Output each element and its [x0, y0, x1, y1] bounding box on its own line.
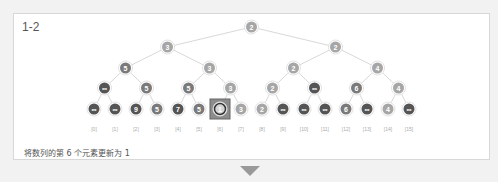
svg-text:2: 2	[292, 65, 296, 72]
leaf-index-label: [8]	[259, 126, 265, 132]
tree-node: ∞	[308, 81, 322, 95]
svg-text:∞: ∞	[113, 106, 118, 113]
svg-text:5: 5	[145, 85, 149, 92]
leaf-node: 5	[192, 102, 206, 116]
leaf-node: ∞	[108, 102, 122, 116]
svg-text:2: 2	[260, 106, 264, 113]
leaf-node: ∞	[276, 102, 290, 116]
svg-text:5: 5	[197, 106, 201, 113]
leaf-node: ∞	[297, 102, 311, 116]
svg-text:2: 2	[334, 44, 338, 51]
leaf-index-label: [13]	[363, 126, 372, 132]
svg-text:∞: ∞	[323, 106, 328, 113]
svg-text:∞: ∞	[102, 85, 107, 92]
leaf-index-label: [7]	[238, 126, 244, 132]
tree-node: 4	[371, 61, 385, 75]
tree-node: 5	[182, 81, 196, 95]
svg-text:3: 3	[229, 85, 233, 92]
leaf-node: 5	[150, 102, 164, 116]
segment-tree-diagram: 2325324∞5532∞64∞∞9575132∞∞∞6∞4∞[0][1][2]…	[14, 14, 491, 161]
leaf-index-label: [15]	[405, 126, 414, 132]
svg-text:4: 4	[386, 106, 390, 113]
leaf-index-label: [2]	[133, 126, 139, 132]
svg-text:∞: ∞	[92, 106, 97, 113]
leaf-index-label: [11]	[321, 126, 330, 132]
leaf-index-label: [6]	[217, 126, 223, 132]
leaf-index-label: [14]	[384, 126, 393, 132]
svg-text:∞: ∞	[281, 106, 286, 113]
svg-text:4: 4	[397, 85, 401, 92]
tree-node: 2	[245, 20, 259, 34]
leaf-node: ∞	[360, 102, 374, 116]
svg-text:5: 5	[124, 65, 128, 72]
leaf-index-label: [4]	[175, 126, 181, 132]
svg-text:4: 4	[376, 65, 380, 72]
tree-node: 5	[140, 81, 154, 95]
caption: 将数列的第 6 个元素更新为 1	[24, 147, 130, 158]
tree-node: 4	[392, 81, 406, 95]
leaf-index-label: [3]	[154, 126, 160, 132]
leaf-node: ∞	[402, 102, 416, 116]
tree-node: ∞	[98, 81, 112, 95]
leaf-index-label: [9]	[280, 126, 286, 132]
tree-node: 2	[329, 40, 343, 54]
leaf-node: ∞	[87, 102, 101, 116]
leaf-node: ∞	[318, 102, 332, 116]
tree-node: 6	[350, 81, 364, 95]
leaf-index-label: [12]	[342, 126, 351, 132]
svg-text:3: 3	[239, 106, 243, 113]
svg-text:1: 1	[218, 106, 222, 113]
tree-node: 3	[224, 81, 238, 95]
svg-text:7: 7	[176, 106, 180, 113]
leaf-index-label: [1]	[112, 126, 118, 132]
svg-text:∞: ∞	[302, 106, 307, 113]
tree-node: 2	[287, 61, 301, 75]
svg-text:∞: ∞	[407, 106, 412, 113]
svg-text:2: 2	[271, 85, 275, 92]
svg-text:9: 9	[134, 106, 138, 113]
tree-node: 3	[161, 40, 175, 54]
leaf-index-label: [5]	[196, 126, 202, 132]
down-arrow-icon	[240, 166, 260, 176]
svg-text:2: 2	[250, 24, 254, 31]
tree-node: 2	[266, 81, 280, 95]
leaf-node: 2	[255, 102, 269, 116]
svg-text:∞: ∞	[312, 85, 317, 92]
tree-node: 5	[119, 61, 133, 75]
tree-node: 3	[203, 61, 217, 75]
svg-text:6: 6	[355, 85, 359, 92]
svg-text:5: 5	[155, 106, 159, 113]
svg-text:6: 6	[344, 106, 348, 113]
svg-text:3: 3	[166, 44, 170, 51]
leaf-node: 7	[171, 102, 185, 116]
leaf-index-label: [10]	[300, 126, 309, 132]
leaf-node: 6	[339, 102, 353, 116]
diagram-panel: 1-2 2325324∞5532∞64∞∞9575132∞∞∞6∞4∞[0][1…	[13, 13, 490, 160]
leaf-node: 4	[381, 102, 395, 116]
leaf-index-label: [0]	[91, 126, 97, 132]
leaf-node: 9	[129, 102, 143, 116]
leaf-node: 1	[210, 99, 230, 119]
svg-text:5: 5	[187, 85, 191, 92]
leaf-node: 3	[234, 102, 248, 116]
svg-text:3: 3	[208, 65, 212, 72]
svg-text:∞: ∞	[365, 106, 370, 113]
